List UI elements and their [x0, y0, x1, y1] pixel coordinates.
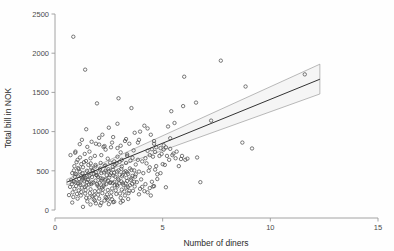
x-tick-label: 10 [266, 223, 274, 232]
y-axis-title: Total bill in NOK [3, 87, 13, 148]
x-tick-label: 5 [161, 223, 165, 232]
scatter-plot-figure: 05001000150020002500 051015 Total bill i… [0, 0, 394, 251]
x-tick-label: 15 [374, 223, 382, 232]
y-tick-label: 0 [45, 206, 49, 215]
y-tick-label: 500 [36, 167, 49, 176]
y-tick-label: 2500 [32, 10, 49, 19]
x-tick-label: 0 [53, 223, 57, 232]
x-axis-title: Number of diners [183, 238, 248, 248]
chart-canvas: 05001000150020002500 051015 Total bill i… [0, 0, 394, 251]
y-tick-label: 1000 [32, 127, 49, 136]
y-tick-label: 2000 [32, 49, 49, 58]
y-tick-label: 1500 [32, 88, 49, 97]
